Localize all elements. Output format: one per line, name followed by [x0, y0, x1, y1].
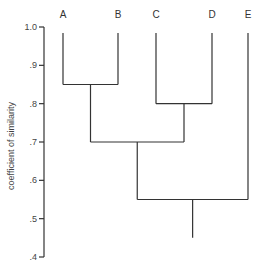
merge-a-b: [63, 33, 118, 85]
merge-a-b-c-d-e: [137, 33, 248, 200]
y-tick-label: .9: [29, 60, 37, 70]
merge-c-d: [156, 33, 212, 104]
y-tick-label: .6: [29, 175, 37, 185]
y-tick-label: .5: [29, 214, 37, 224]
y-axis-title: coefficient of similarity: [6, 102, 16, 190]
leaf-label-a: A: [60, 9, 67, 20]
merge-a-b-c-d: [91, 85, 185, 143]
dendrogram-branches: [63, 33, 248, 238]
leaf-label-d: D: [208, 9, 215, 20]
leaf-label-b: B: [115, 9, 122, 20]
y-axis: 1.0.9.8.7.6.5.4: [24, 22, 44, 262]
leaf-label-c: C: [152, 9, 159, 20]
leaf-label-e: E: [245, 9, 252, 20]
y-tick-label: .4: [29, 252, 37, 262]
y-tick-label: 1.0: [24, 22, 37, 32]
leaf-labels: ABCDE: [60, 9, 252, 20]
y-tick-label: .8: [29, 99, 37, 109]
y-tick-label: .7: [29, 137, 37, 147]
dendrogram-chart: coefficient of similarity 1.0.9.8.7.6.5.…: [0, 0, 259, 265]
